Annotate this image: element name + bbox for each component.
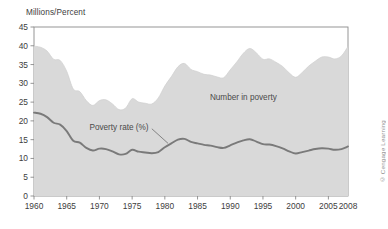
x-tick-label: 1965 — [57, 201, 76, 211]
x-tick-label: 2008 — [339, 201, 358, 211]
x-tick-label: 1980 — [156, 201, 175, 211]
annotation-poverty-rate: Poverty rate (%) — [89, 123, 148, 132]
axis-title: Millions/Percent — [26, 8, 85, 17]
chart-canvas: 051015202530354045 196019651970197519801… — [0, 0, 388, 229]
y-tick-label: 10 — [19, 153, 29, 163]
x-tick-label: 1995 — [254, 201, 273, 211]
x-tick-label: 1975 — [123, 201, 142, 211]
poverty-chart-figure: Millions/Percent 051015202530354045 1960… — [0, 0, 388, 229]
copyright-text: © Cengage Learning — [379, 120, 386, 183]
y-tick-label: 30 — [19, 78, 29, 88]
annotation-number-in-poverty: Number in poverty — [210, 93, 278, 102]
x-tick-label: 1985 — [188, 201, 207, 211]
y-axis-tick-labels: 051015202530354045 — [19, 22, 29, 201]
x-tick-label: 1970 — [90, 201, 109, 211]
copyright-credit: © Cengage Learning — [379, 120, 386, 210]
y-tick-label: 15 — [19, 135, 29, 145]
x-tick-label: 1990 — [221, 201, 240, 211]
y-tick-label: 35 — [19, 60, 29, 70]
x-tick-label: 2005 — [319, 201, 338, 211]
y-tick-label: 5 — [23, 172, 28, 182]
y-tick-label: 45 — [19, 22, 29, 32]
y-tick-label: 0 — [23, 191, 28, 201]
x-tick-label: 1960 — [25, 201, 44, 211]
y-tick-label: 40 — [19, 41, 29, 51]
x-tick-label: 2000 — [286, 201, 305, 211]
x-axis-tick-labels: 1960196519701975198019851990199520002005… — [25, 201, 358, 211]
y-tick-label: 25 — [19, 97, 29, 107]
y-tick-label: 20 — [19, 116, 29, 126]
